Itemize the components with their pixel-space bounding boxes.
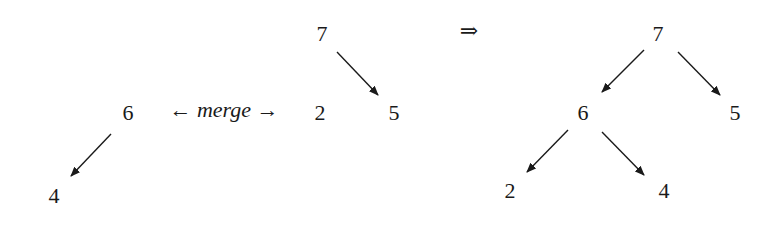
node-6-left: 6	[123, 102, 134, 124]
edge-6-2	[527, 130, 568, 172]
node-6: 6	[578, 102, 589, 124]
edge-7-5-left	[337, 52, 378, 95]
right-arrow-icon: →	[257, 97, 279, 122]
edge-6-4-left	[71, 134, 111, 176]
edge-6-4	[602, 132, 644, 175]
node-5-left: 5	[389, 102, 400, 124]
node-2-left: 2	[315, 102, 326, 124]
left-arrow-icon: ←	[169, 97, 191, 122]
node-2: 2	[505, 180, 516, 202]
node-7-root: 7	[653, 23, 664, 45]
merge-label: merge	[197, 97, 251, 122]
node-7-left: 7	[317, 23, 328, 45]
edge-7-5	[678, 52, 720, 95]
node-4-left: 4	[49, 185, 60, 207]
node-4: 4	[659, 180, 670, 202]
edge-7-6	[602, 50, 644, 92]
node-5: 5	[730, 102, 741, 124]
implies-icon: ⇒	[460, 20, 478, 42]
merge-operator: ← merge →	[169, 99, 278, 121]
